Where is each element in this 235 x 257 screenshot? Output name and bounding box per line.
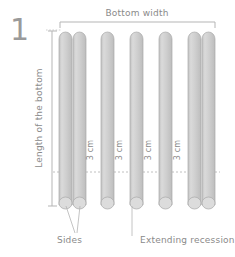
extending-recession-label: Extending recession: [140, 235, 235, 245]
gap-label-2: 3 cm: [115, 140, 124, 161]
sides-leader-line-1: [66, 206, 75, 233]
stick-recession-3: [159, 32, 172, 209]
stick-recession-1: [101, 32, 114, 209]
bottom-width-dimension: Bottom width: [60, 8, 215, 28]
stick-end-circle: [101, 197, 114, 209]
stick-end-circle: [188, 197, 201, 209]
stick-side-left-inner: [73, 32, 86, 209]
bottom-assembly-diagram: 1 Bottom width Length of the bottom: [0, 0, 235, 257]
gap-label-1: 3 cm: [86, 140, 95, 161]
sides-callout: Sides: [57, 206, 82, 245]
gap-label-4: 3 cm: [173, 140, 182, 161]
stick-side-right-outer: [202, 32, 215, 209]
stick-side-right-inner: [188, 32, 201, 209]
length-of-bottom-label: Length of the bottom: [34, 68, 44, 168]
sides-leader-line-2: [77, 206, 80, 233]
gap-label-3: 3 cm: [144, 140, 153, 161]
stick-side-left-outer: [59, 32, 72, 209]
length-of-bottom-dimension: Length of the bottom: [34, 31, 57, 206]
stick-end-circle: [202, 197, 215, 209]
bottom-width-label: Bottom width: [105, 8, 168, 18]
extending-recession-callout: Extending recession: [132, 206, 235, 245]
sides-label: Sides: [57, 235, 82, 245]
bottom-width-bracket: [60, 22, 215, 28]
stick-end-circle: [59, 197, 72, 209]
step-number: 1: [10, 12, 29, 47]
stick-end-circle: [159, 197, 172, 209]
stick-recession-2: [130, 32, 143, 209]
